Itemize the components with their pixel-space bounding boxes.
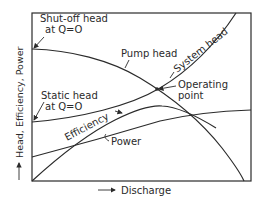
x-axis-label: Discharge xyxy=(121,185,171,196)
static-head-arrow xyxy=(34,102,44,120)
system-head-leader xyxy=(170,72,174,78)
pump-head-leader xyxy=(125,60,129,68)
pump-curve-diagram: Shut-off head at Q=O Pump head System he… xyxy=(0,0,267,202)
operating-point-label-line2: point xyxy=(178,90,204,101)
shutoff-head-arrow xyxy=(34,37,44,48)
efficiency-arrow xyxy=(115,111,122,113)
pump-head-label: Pump head xyxy=(121,48,177,59)
static-head-label-line1: Static head xyxy=(41,90,98,101)
operating-point-marker xyxy=(155,87,159,91)
pump-head-curve xyxy=(32,49,244,181)
system-head-label: System head xyxy=(171,26,229,75)
operating-point-label-line1: Operating xyxy=(178,79,228,90)
power-leader xyxy=(105,134,109,141)
power-label: Power xyxy=(111,136,142,147)
y-axis-label: Head, Efficiency, Power xyxy=(14,47,25,158)
static-head-label-line2: at Q=O xyxy=(45,101,82,112)
shutoff-head-label-line2: at Q=O xyxy=(45,24,82,35)
shutoff-head-label-line1: Shut-off head xyxy=(40,13,108,24)
